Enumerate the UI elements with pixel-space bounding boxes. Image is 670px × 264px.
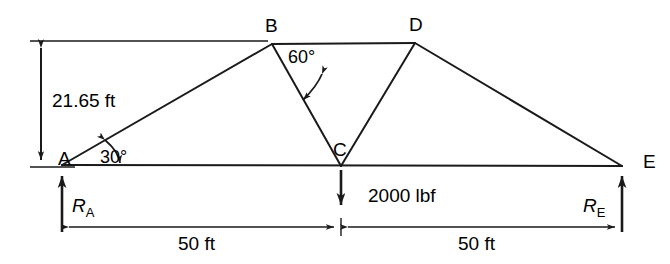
angle-60-curve xyxy=(303,74,322,100)
span-right-label: 50 ft xyxy=(458,234,495,253)
member-D-E xyxy=(415,43,622,166)
node-label-D: D xyxy=(409,15,423,34)
member-A-E xyxy=(62,165,622,166)
span-dimensions xyxy=(69,218,615,236)
reaction-A-subscript: A xyxy=(86,205,95,220)
reaction-A-label: RA xyxy=(72,196,94,219)
reaction-A-symbol: R xyxy=(72,195,86,216)
reaction-E-symbol: R xyxy=(583,195,597,216)
member-C-D xyxy=(341,43,415,166)
reaction-E-label: RE xyxy=(583,196,605,219)
angle-60-label: 60° xyxy=(288,48,315,66)
angle-30-label: 30° xyxy=(100,148,127,166)
truss-diagram: A B C D E 21.65 ft 30° 60° 2000 lbf RA R… xyxy=(0,0,670,264)
span-left-label: 50 ft xyxy=(178,234,215,253)
node-label-B: B xyxy=(265,16,278,35)
applied-load-label: 2000 lbf xyxy=(368,186,436,205)
angle-60-arc xyxy=(303,74,322,100)
truss-drawing xyxy=(0,0,670,264)
height-dimension-label: 21.65 ft xyxy=(52,91,115,110)
member-B-D xyxy=(272,43,415,44)
node-label-A: A xyxy=(58,149,71,168)
node-label-E: E xyxy=(643,152,656,171)
node-label-C: C xyxy=(333,140,347,159)
reaction-E-subscript: E xyxy=(597,205,606,220)
